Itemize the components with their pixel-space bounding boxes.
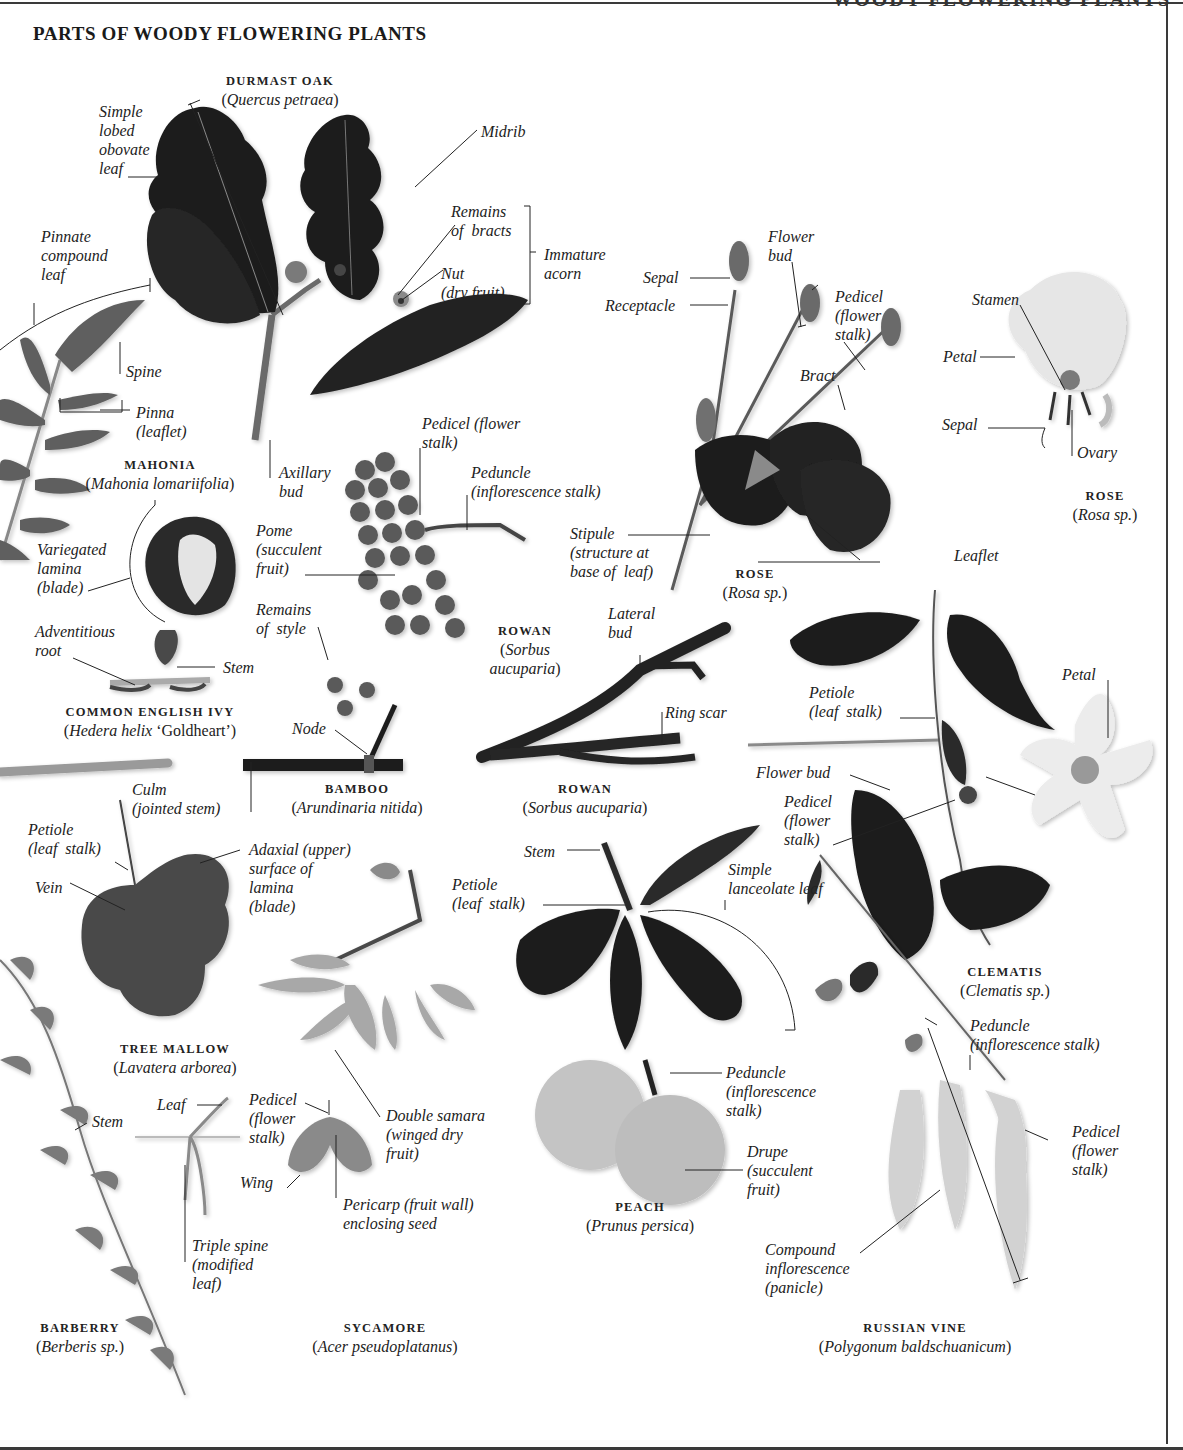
label-rose-stipule: Stipule (structure at base of leaf) bbox=[570, 524, 653, 581]
label-rowan-pedicel: Pedicel (flower stalk) bbox=[422, 414, 520, 452]
label-rose-bract: Bract bbox=[800, 366, 836, 385]
species-caption-tree-mallow: TREE MALLOW (Lavatera arborea) bbox=[95, 1040, 255, 1077]
species-caption-durmast-oak: DURMAST OAK (Quercus petraea) bbox=[210, 72, 350, 109]
label-rowan-pome: Pome (succulent fruit) bbox=[256, 521, 322, 578]
label-vine-peduncle: Peduncle (inflorescence stalk) bbox=[970, 1016, 1100, 1054]
label-ivy-variegated-lamina: Variegated lamina (blade) bbox=[37, 540, 106, 597]
label-rose2-ovary: Ovary bbox=[1077, 443, 1117, 462]
label-rose2-petal: Petal bbox=[943, 347, 977, 366]
species-caption-peach: PEACH (Prunus persica) bbox=[570, 1198, 710, 1235]
label-rose-leaflet: Leaflet bbox=[954, 546, 998, 565]
label-rose2-sepal: Sepal bbox=[942, 415, 978, 434]
peach-specimen bbox=[516, 825, 760, 1205]
species-caption-clematis: CLEMATIS (Clematis sp.) bbox=[950, 963, 1060, 1000]
bamboo-specimen bbox=[243, 705, 403, 773]
label-bamboo-culm: Culm (jointed stem) bbox=[132, 780, 220, 818]
label-oak-immature-acorn: Immature acorn bbox=[544, 245, 606, 283]
label-mallow-vein: Vein bbox=[35, 878, 63, 897]
label-rowan-lateral-bud: Lateral bud bbox=[608, 604, 655, 642]
tree-mallow-specimen bbox=[81, 800, 229, 1016]
label-rose-pedicel: Pedicel (flower stalk) bbox=[835, 287, 883, 344]
species-caption-mahonia: MAHONIA (Mahonia lomariifolia) bbox=[70, 456, 250, 493]
species-caption-rowan-2: ROWAN (Sorbus aucuparia) bbox=[510, 780, 660, 817]
label-bamboo-node: Node bbox=[292, 719, 326, 738]
label-rose2-stamen: Stamen bbox=[972, 290, 1019, 309]
label-peach-peduncle: Peduncle (inflorescence stalk) bbox=[726, 1063, 816, 1120]
label-barberry-triple-spine: Triple spine (modified leaf) bbox=[192, 1236, 268, 1293]
species-caption-common-english-ivy: COMMON ENGLISH IVY (Hedera helix ‘Goldhe… bbox=[40, 703, 260, 740]
label-clematis-flower-bud: Flower bud bbox=[756, 763, 830, 782]
label-sycamore-pericarp: Pericarp (fruit wall) enclosing seed bbox=[343, 1195, 474, 1233]
species-caption-rowan-1: ROWAN (Sorbus aucuparia) bbox=[480, 622, 570, 678]
label-oak-simple-lobed-leaf: Simple lobed obovate leaf bbox=[99, 102, 150, 178]
label-mahonia-spine: Spine bbox=[126, 362, 162, 381]
label-vine-compound-inflorescence: Compound inflorescence (panicle) bbox=[765, 1240, 850, 1297]
label-rose-receptacle: Receptacle bbox=[605, 296, 675, 315]
label-clematis-pedicel: Pedicel (flower stalk) bbox=[784, 792, 832, 849]
label-mallow-adaxial-surface: Adaxial (upper) surface of lamina (blade… bbox=[249, 840, 351, 916]
species-caption-barberry: BARBERRY (Berberis sp.) bbox=[30, 1319, 130, 1356]
label-mahonia-pinnate-compound-leaf: Pinnate compound leaf bbox=[41, 227, 108, 284]
label-sycamore-double-samara: Double samara (winged dry fruit) bbox=[386, 1106, 485, 1163]
label-oak-nut: Nut (dry fruit) bbox=[441, 264, 505, 302]
label-vine-pedicel: Pedicel (flower stalk) bbox=[1072, 1122, 1120, 1179]
label-rowan-remains-style: Remains of style bbox=[256, 600, 311, 638]
label-barberry-leaf: Leaf bbox=[157, 1095, 185, 1114]
species-caption-bamboo: BAMBOO (Arundinaria nitida) bbox=[272, 780, 442, 817]
species-caption-rose-1: ROSE (Rosa sp.) bbox=[700, 565, 810, 602]
label-rose-sepal: Sepal bbox=[643, 268, 679, 287]
label-ivy-stem: Stem bbox=[223, 658, 254, 677]
label-clematis-petal: Petal bbox=[1062, 665, 1096, 684]
label-rowan-ring-scar: Ring scar bbox=[665, 703, 727, 722]
label-mahonia-pinna: Pinna (leaflet) bbox=[136, 403, 187, 441]
label-ivy-adventitious-root: Adventitious root bbox=[35, 622, 115, 660]
mahonia-specimen bbox=[0, 300, 145, 560]
label-peach-drupe: Drupe (succulent fruit) bbox=[747, 1142, 813, 1199]
species-caption-rose-2: ROSE (Rosa sp.) bbox=[1055, 487, 1155, 524]
label-rowan-peduncle: Peduncle (inflorescence stalk) bbox=[471, 463, 601, 501]
label-mallow-petiole: Petiole (leaf stalk) bbox=[28, 820, 101, 858]
species-caption-russian-vine: RUSSIAN VINE (Polygonum baldschuanicum) bbox=[790, 1319, 1040, 1356]
label-oak-remains-bracts: Remains of bracts bbox=[451, 202, 511, 240]
label-oak-midrib: Midrib bbox=[481, 122, 525, 141]
label-peach-stem: Stem bbox=[524, 842, 555, 861]
label-peach-simple-lanceolate-leaf: Simple lanceolate leaf bbox=[728, 860, 823, 898]
label-clematis-petiole: Petiole (leaf stalk) bbox=[809, 683, 882, 721]
rose-flower-specimen bbox=[1009, 272, 1127, 425]
label-oak-axillary-bud: Axillary bud bbox=[279, 463, 331, 501]
label-peach-petiole: Petiole (leaf stalk) bbox=[452, 875, 525, 913]
label-sycamore-wing: Wing bbox=[240, 1173, 273, 1192]
label-barberry-stem: Stem bbox=[92, 1112, 123, 1131]
label-sycamore-pedicel: Pedicel (flower stalk) bbox=[249, 1090, 297, 1147]
label-rose-flower-bud: Flower bud bbox=[768, 227, 814, 265]
species-caption-sycamore: SYCAMORE (Acer pseudoplatanus) bbox=[290, 1319, 480, 1356]
